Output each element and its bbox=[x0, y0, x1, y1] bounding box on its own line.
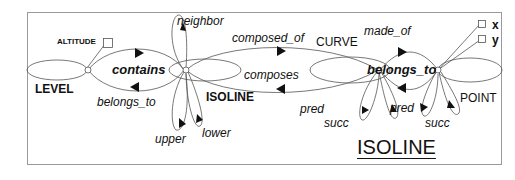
attribute-y: y bbox=[492, 34, 499, 46]
node-curve: CURVE bbox=[316, 36, 358, 48]
point-pred-arrow-icon bbox=[420, 103, 428, 112]
relation-curve-pred: pred bbox=[300, 103, 324, 115]
altitude-attribute-box bbox=[104, 39, 113, 48]
isoline-entity-shape bbox=[169, 59, 241, 81]
relation-contains: contains bbox=[112, 63, 165, 76]
point-succ-loop bbox=[439, 72, 460, 114]
relation-upper: upper bbox=[155, 133, 186, 145]
curve-pred-arrow-icon bbox=[362, 106, 369, 114]
diagram-title: ISOLINE bbox=[357, 137, 436, 157]
attribute-altitude: ALTITUDE bbox=[57, 38, 96, 46]
diagram-graphics bbox=[0, 0, 515, 180]
made-of-arrow-icon bbox=[398, 47, 407, 57]
y-connector bbox=[438, 40, 480, 70]
relation-belongs-to-curve: belongs_to bbox=[367, 63, 436, 76]
relation-curve-succ: succ bbox=[324, 117, 349, 129]
y-attribute-box bbox=[479, 36, 486, 43]
relation-composed-of: composed_of bbox=[232, 32, 304, 44]
level-junction-circle bbox=[85, 67, 91, 73]
relation-neighbor: neighbor bbox=[177, 15, 224, 27]
node-point: POINT bbox=[460, 92, 497, 104]
attribute-x: x bbox=[492, 19, 499, 31]
relation-lower: lower bbox=[202, 127, 231, 139]
level-entity-shape bbox=[27, 60, 87, 80]
relation-composes: composes bbox=[244, 69, 299, 81]
x-connector bbox=[438, 24, 480, 70]
relation-made-of: made_of bbox=[364, 25, 411, 37]
relation-point-pred: pred bbox=[390, 102, 414, 114]
altitude-connector bbox=[87, 44, 105, 68]
relation-belongs-to-level: belongs_to bbox=[97, 96, 156, 108]
node-isoline: ISOLINE bbox=[206, 91, 254, 103]
isoline-schema-diagram: ALTITUDE LEVEL contains belongs_to neigh… bbox=[0, 0, 515, 180]
point-entity-shape bbox=[438, 58, 502, 82]
relation-point-succ: succ bbox=[425, 117, 450, 129]
isoline-junction-circle bbox=[183, 67, 189, 73]
belongs-to-curve-arrow-icon bbox=[397, 83, 406, 93]
point-succ-arrow-icon bbox=[447, 100, 455, 108]
x-attribute-box bbox=[479, 21, 486, 28]
node-level: LEVEL bbox=[35, 83, 74, 95]
